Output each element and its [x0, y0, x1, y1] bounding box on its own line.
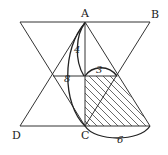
- measure-full-height: 8: [64, 73, 70, 84]
- measure-upper-height: 4: [73, 44, 80, 55]
- label-a: A: [80, 7, 90, 20]
- geometry-diagram: A B C D 4 8 3 6: [0, 0, 168, 155]
- diagram-svg: A B C D 4 8 3 6: [0, 0, 168, 155]
- measure-base-width: 6: [117, 134, 124, 145]
- label-d: D: [12, 129, 21, 142]
- label-c: C: [81, 129, 89, 142]
- label-b: B: [151, 8, 159, 21]
- measure-mid-width: 3: [96, 64, 102, 75]
